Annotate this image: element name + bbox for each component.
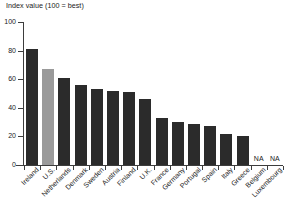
x-axis-category-labels: IrelandU.S.NetherlandsDenmarkSwedenAustr… bbox=[0, 166, 287, 215]
y-axis-tick-label: 40 bbox=[0, 104, 16, 111]
bar[interactable] bbox=[123, 92, 135, 165]
bar[interactable] bbox=[26, 49, 38, 165]
bar[interactable] bbox=[91, 89, 103, 165]
bar[interactable] bbox=[58, 78, 70, 165]
na-value-label: NA bbox=[265, 155, 285, 162]
x-axis-category-label: Ireland bbox=[20, 166, 40, 186]
y-axis-tick-label: 100 bbox=[0, 18, 16, 25]
bar[interactable] bbox=[172, 122, 184, 165]
bar[interactable] bbox=[220, 134, 232, 165]
y-axis-tick-label: 60 bbox=[0, 75, 16, 82]
bar[interactable] bbox=[107, 91, 119, 165]
bar[interactable] bbox=[156, 118, 168, 165]
bar[interactable] bbox=[237, 136, 249, 165]
y-axis-tick-label: 80 bbox=[0, 47, 16, 54]
x-axis-category-label: Spain bbox=[200, 166, 218, 184]
bar-chart: Index value (100 = best) 020406080100 Ir… bbox=[0, 0, 287, 215]
bar[interactable] bbox=[75, 85, 87, 165]
bar[interactable] bbox=[204, 126, 216, 165]
bar[interactable] bbox=[42, 69, 54, 165]
y-axis-tick-label: 20 bbox=[0, 132, 16, 139]
chart-axis-title: Index value (100 = best) bbox=[6, 1, 84, 10]
bar[interactable] bbox=[139, 99, 151, 165]
bar[interactable] bbox=[188, 124, 200, 165]
bars-container bbox=[24, 22, 283, 165]
